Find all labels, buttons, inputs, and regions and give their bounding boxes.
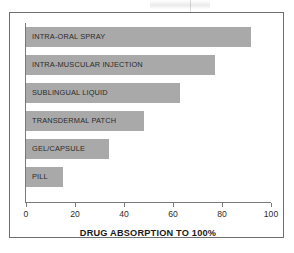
bar-label: INTRA-ORAL SPRAY: [32, 27, 105, 47]
bar-label: INTRA-MUSCULAR INJECTION: [32, 55, 143, 75]
tick-mark: [173, 203, 174, 207]
scan-artifact: [150, 0, 210, 9]
bar-label: TRANSDERMAL PATCH: [32, 111, 116, 131]
tick-mark: [222, 203, 223, 207]
bar-label: SUBLINGUAL LIQUID: [32, 83, 108, 103]
chart-frame: INTRA-ORAL SPRAY INTRA-MUSCULAR INJECTIO…: [9, 12, 284, 238]
page-seam-line: [190, 0, 191, 12]
tick-mark: [124, 203, 125, 207]
tick-label: 0: [24, 209, 29, 219]
tick-label: 60: [168, 209, 178, 219]
plot-area: INTRA-ORAL SPRAY INTRA-MUSCULAR INJECTIO…: [25, 23, 271, 203]
tick-mark: [271, 203, 272, 207]
tick-label: 100: [264, 209, 278, 219]
tick-mark: [26, 203, 27, 207]
bar-label: PILL: [32, 167, 48, 187]
tick-label: 20: [70, 209, 80, 219]
tick-label: 80: [217, 209, 227, 219]
tick-label: 40: [119, 209, 129, 219]
tick-mark: [75, 203, 76, 207]
x-axis-title: DRUG ABSORPTION TO 100%: [25, 228, 271, 238]
figure-container: INTRA-ORAL SPRAY INTRA-MUSCULAR INJECTIO…: [0, 0, 294, 253]
bar-series: INTRA-ORAL SPRAY INTRA-MUSCULAR INJECTIO…: [26, 23, 271, 202]
x-axis-tick-labels: 0 20 40 60 80 100: [25, 209, 271, 223]
bar-label: GEL/CAPSULE: [32, 139, 85, 159]
